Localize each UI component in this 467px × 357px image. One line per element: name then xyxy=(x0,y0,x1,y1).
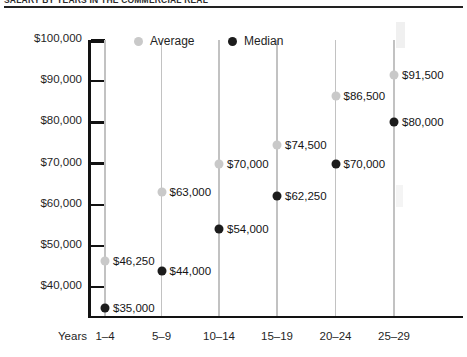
x-axis-tick-label: 5–9 xyxy=(152,330,171,342)
y-axis-tick-label: $90,000 xyxy=(2,73,82,85)
x-axis-tick-label: 1–4 xyxy=(95,330,114,342)
data-point-avg[interactable] xyxy=(101,257,110,266)
data-point-med[interactable] xyxy=(331,159,340,168)
gridline xyxy=(393,40,394,316)
data-point-label: $70,000 xyxy=(344,158,386,170)
data-point-med[interactable] xyxy=(215,225,224,234)
chart-root: Salary by Years in the Commercial Real $… xyxy=(0,0,467,357)
y-axis-tick xyxy=(91,286,105,289)
gridline xyxy=(335,40,336,316)
x-axis-tick-label: 25–29 xyxy=(378,330,410,342)
data-point-label: $44,000 xyxy=(170,265,212,277)
data-point-med[interactable] xyxy=(273,191,282,200)
data-point-label: $35,000 xyxy=(113,302,155,314)
y-axis-tick-label: $100,000 xyxy=(2,32,82,44)
scan-artifact-mid xyxy=(396,185,403,207)
data-point-label: $91,500 xyxy=(402,69,444,81)
data-point-avg[interactable] xyxy=(157,188,166,197)
data-point-label: $80,000 xyxy=(402,116,444,128)
y-axis-tick-label: $40,000 xyxy=(2,279,82,291)
data-point-label: $63,000 xyxy=(170,186,212,198)
plot-area: $40,000$50,000$60,000$70,000$80,000$90,0… xyxy=(0,0,467,357)
data-point-avg[interactable] xyxy=(273,141,282,150)
legend-label-average: Average xyxy=(150,34,194,48)
data-point-label: $54,000 xyxy=(227,223,269,235)
x-axis-tick-label: 10–14 xyxy=(203,330,235,342)
y-axis-tick xyxy=(91,121,105,124)
data-point-label: $46,250 xyxy=(113,255,155,267)
gridline xyxy=(104,40,105,316)
data-point-label: $62,250 xyxy=(285,190,327,202)
y-axis-tick-label: $50,000 xyxy=(2,238,82,250)
y-axis-tick-label: $60,000 xyxy=(2,197,82,209)
y-axis-tick xyxy=(91,204,105,207)
legend-item-average[interactable]: Average xyxy=(134,33,194,49)
data-point-label: $86,500 xyxy=(344,90,386,102)
y-axis-tick-label: $80,000 xyxy=(2,114,82,126)
y-axis-tick xyxy=(91,80,105,83)
x-axis-tick-label: 15–19 xyxy=(261,330,293,342)
legend-swatch-average-icon xyxy=(134,37,143,46)
legend-item-median[interactable]: Median xyxy=(228,33,283,49)
x-axis-caption: Years xyxy=(58,330,87,342)
data-point-avg[interactable] xyxy=(390,71,399,80)
gridline xyxy=(218,40,219,316)
y-axis-tick xyxy=(91,162,105,165)
y-axis-tick-label: $70,000 xyxy=(2,156,82,168)
data-point-med[interactable] xyxy=(157,266,166,275)
data-point-label: $70,000 xyxy=(227,158,269,170)
x-axis-tick-label: 20–24 xyxy=(320,330,352,342)
data-point-med[interactable] xyxy=(390,118,399,127)
data-point-avg[interactable] xyxy=(215,159,224,168)
data-point-med[interactable] xyxy=(101,303,110,312)
scan-artifact-top xyxy=(396,22,405,48)
legend-swatch-median-icon xyxy=(228,37,237,46)
data-point-avg[interactable] xyxy=(331,91,340,100)
data-point-label: $74,500 xyxy=(285,139,327,151)
y-axis-tick xyxy=(91,245,105,248)
gridline xyxy=(276,40,277,316)
y-axis-tick xyxy=(91,39,105,42)
legend-label-median: Median xyxy=(244,34,283,48)
